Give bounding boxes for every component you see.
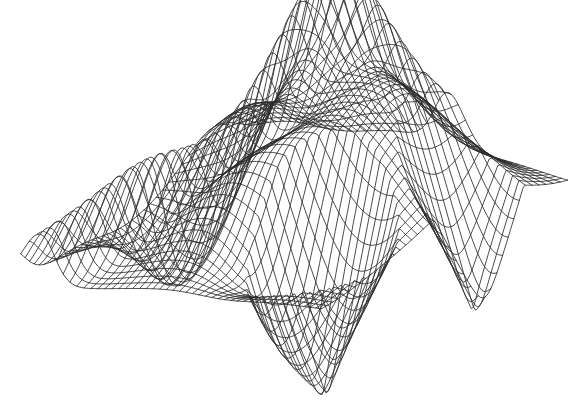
wireframe-figure — [0, 0, 568, 416]
mesh-line — [180, 0, 421, 291]
mesh-line — [133, 49, 373, 289]
mesh-line — [139, 29, 379, 288]
mesh-line — [60, 176, 366, 376]
mesh-line — [39, 207, 343, 321]
mesh-line — [243, 84, 486, 358]
mesh-line — [76, 157, 383, 393]
mesh-surface-svg — [0, 0, 568, 416]
mesh-line — [25, 228, 327, 306]
mesh-line — [163, 0, 479, 302]
mesh-line — [225, 75, 466, 315]
mesh-line-group — [21, 0, 568, 394]
mesh-line — [310, 175, 556, 308]
